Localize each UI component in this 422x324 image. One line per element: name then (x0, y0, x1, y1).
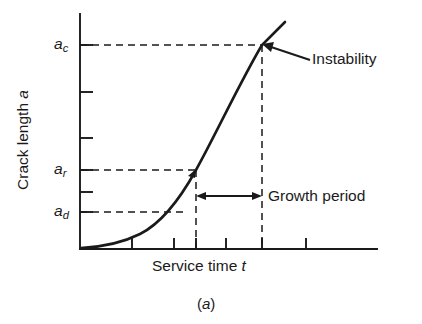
y-tick-label-ad-base: a (54, 202, 63, 219)
horizontal-guide-lines (80, 45, 262, 212)
y-axis-title-text: Crack length (14, 99, 31, 190)
growth-period-annotation-label: Growth period (268, 188, 365, 204)
instability-leader-line (262, 42, 310, 60)
y-tick-label-ad: ad (54, 203, 69, 221)
figure-crack-growth: Crack length a ac ar ad Service time t I… (0, 0, 422, 324)
y-tick-label-ar: ar (54, 161, 66, 179)
growth-period-arrow (196, 192, 262, 200)
y-tick-label-ar-sub: r (63, 167, 67, 179)
y-tick-label-ar-base: a (54, 160, 63, 177)
y-tick-label-ac-sub: c (63, 42, 69, 54)
x-axis-title-text: Service time (152, 257, 242, 274)
y-tick-label-ac-base: a (54, 35, 63, 52)
vertical-guide-lines (196, 45, 262, 249)
crack-growth-curve (81, 22, 285, 248)
y-tick-label-ad-sub: d (63, 209, 69, 221)
panel-caption-letter: a (202, 295, 210, 312)
y-axis-title-symbol: a (14, 90, 31, 99)
x-axis-title-symbol: t (242, 257, 246, 274)
x-axis-ticks (132, 238, 306, 249)
y-axis-ticks (80, 45, 93, 212)
x-axis-title: Service time t (152, 258, 246, 274)
panel-caption: (a) (197, 296, 215, 311)
instability-annotation-label: Instability (312, 51, 377, 67)
y-tick-label-ac: ac (54, 36, 68, 54)
y-axis-title: Crack length a (10, 40, 36, 240)
